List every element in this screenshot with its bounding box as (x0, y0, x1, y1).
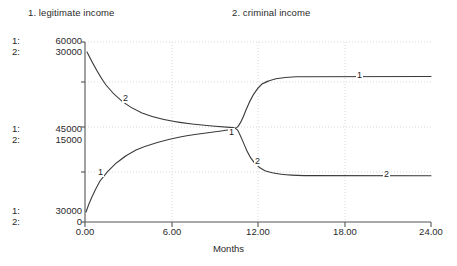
x-axis-tick-3: 18.00 (322, 226, 368, 237)
y-axis-ticks (81, 42, 85, 222)
x-axis-tick-2: 12.00 (235, 226, 281, 237)
gridlines-vertical (172, 42, 345, 222)
x-axis-tick-4: 24.00 (408, 226, 454, 237)
curve-label-series-2-left: 2 (122, 94, 129, 103)
x-axis-tick-1: 6.00 (149, 226, 195, 237)
curve-label-series-1-right: 1 (356, 71, 363, 80)
x-axis-tick-0: 0.00 (62, 226, 108, 237)
curve-label-series-2-middle: 2 (254, 157, 261, 166)
curve-label-series-2-right: 2 (383, 170, 390, 179)
curve-label-series-1-middle: 1 (228, 128, 235, 137)
gridlines-horizontal (85, 42, 431, 172)
x-axis-label: Months (0, 243, 457, 254)
chart-canvas: 1. legitimate income 2. criminal income … (0, 0, 457, 266)
curve-label-series-1-left: 1 (97, 168, 104, 177)
